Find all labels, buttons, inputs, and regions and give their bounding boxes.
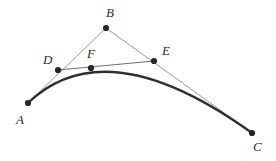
vertex-dot-f (88, 65, 94, 71)
vertex-dot-d (55, 67, 61, 73)
point-label-b: B (106, 6, 114, 19)
vertex-dot-b (103, 25, 109, 31)
point-label-e: E (162, 44, 170, 57)
vertex-dot-c (249, 130, 255, 136)
figure-canvas: A B C D E F (0, 0, 276, 161)
point-label-f: F (87, 47, 95, 60)
vertex-dot-a (25, 100, 31, 106)
vertex-dot-e (151, 58, 157, 64)
bezier-curve-afc (28, 72, 252, 133)
bezier-diagram-svg (0, 0, 276, 161)
point-label-c: C (253, 140, 262, 153)
chord-line-de (58, 61, 154, 70)
point-label-d: D (43, 53, 52, 66)
point-label-a: A (16, 113, 24, 126)
